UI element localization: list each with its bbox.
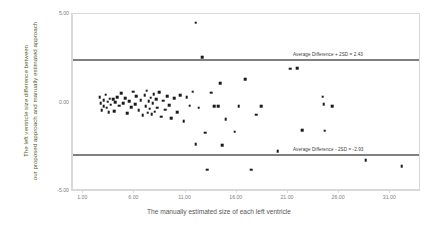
data-point <box>145 90 148 93</box>
data-point <box>198 107 201 110</box>
data-point <box>195 143 198 146</box>
data-point <box>98 96 101 99</box>
data-point <box>173 97 176 100</box>
data-point <box>113 110 116 113</box>
data-point <box>158 91 161 94</box>
x-tick-mark <box>82 190 83 193</box>
y-axis-title-line-1: The left ventricle size difference betwe… <box>22 6 31 196</box>
x-tick-label: 31.00 <box>383 194 396 200</box>
x-axis-title: The manually estimated size of each left… <box>0 208 438 215</box>
y-axis-title: The left ventricle size difference betwe… <box>22 6 40 196</box>
data-point <box>255 114 258 117</box>
data-point <box>221 144 224 147</box>
data-point <box>170 117 173 120</box>
data-point <box>151 113 154 116</box>
data-point <box>100 109 103 112</box>
data-point <box>217 105 220 108</box>
x-tick-mark <box>236 190 237 193</box>
data-point <box>132 90 135 93</box>
data-point <box>144 105 147 108</box>
upper-limit-label: Average Difference + 2SD = 2.43 <box>293 52 363 57</box>
data-point <box>124 97 127 100</box>
data-point <box>219 82 222 85</box>
data-point <box>224 118 227 121</box>
x-tick-mark <box>338 190 339 193</box>
x-tick-mark <box>133 190 134 193</box>
data-point <box>134 103 137 106</box>
x-tick-label: 16.00 <box>229 194 242 200</box>
data-point <box>233 130 236 133</box>
data-point <box>260 105 263 108</box>
lower-limit-label: Average Difference - 2SD = -2.93 <box>293 147 363 152</box>
data-point <box>166 95 169 98</box>
data-point <box>400 165 403 168</box>
data-point <box>110 103 113 106</box>
data-point <box>201 56 204 59</box>
data-point <box>276 150 279 153</box>
y-tick-label: -5.00 <box>44 187 69 193</box>
data-point <box>130 106 133 109</box>
data-point <box>206 168 209 171</box>
data-point <box>204 131 207 134</box>
data-point <box>210 91 213 94</box>
data-point <box>162 99 165 102</box>
data-point <box>182 120 185 123</box>
upper-limit-line <box>73 59 419 60</box>
data-point <box>139 99 142 102</box>
y-axis-title-line-2: our proposed approach and manually estim… <box>31 6 40 196</box>
x-axis-spine <box>71 190 420 191</box>
data-point <box>128 100 131 103</box>
x-tick-mark <box>389 190 390 193</box>
data-point <box>137 109 140 112</box>
x-tick-mark <box>185 190 186 193</box>
y-tick-label: 5.00 <box>44 10 69 16</box>
data-point <box>176 111 179 114</box>
x-tick-label: 11.00 <box>178 194 191 200</box>
data-point <box>321 96 324 99</box>
data-point <box>364 159 367 162</box>
data-point <box>146 111 149 114</box>
lower-limit-line <box>73 154 419 155</box>
data-point <box>147 100 150 103</box>
data-point <box>155 98 158 101</box>
data-point <box>164 108 167 111</box>
data-point <box>116 96 119 99</box>
data-point <box>122 102 125 105</box>
data-point <box>105 107 108 110</box>
data-point <box>191 90 194 93</box>
data-point <box>102 99 105 102</box>
data-point <box>331 105 334 108</box>
x-tick-label: 21.00 <box>280 194 293 200</box>
x-tick-label: 1.00 <box>77 194 87 200</box>
data-point <box>195 22 198 25</box>
data-point <box>168 104 171 107</box>
data-point <box>153 93 156 96</box>
data-point <box>188 104 191 107</box>
data-point <box>118 104 121 107</box>
data-point <box>135 95 138 98</box>
plot-area: Average Difference + 2SD = 2.43Average D… <box>72 13 420 190</box>
data-point <box>179 94 182 97</box>
data-point <box>250 168 253 171</box>
data-point <box>301 129 304 132</box>
bland-altman-chart: Average Difference + 2SD = 2.43Average D… <box>0 0 438 228</box>
data-point <box>185 96 188 99</box>
data-point <box>143 94 146 97</box>
data-point <box>289 68 292 71</box>
data-point <box>213 105 216 108</box>
data-point <box>141 114 144 117</box>
data-point <box>120 92 123 95</box>
data-point <box>104 93 107 96</box>
data-point <box>238 105 241 108</box>
data-point <box>114 101 117 104</box>
x-tick-label: 26.00 <box>332 194 345 200</box>
data-point <box>152 102 155 105</box>
data-point <box>126 112 129 115</box>
data-point <box>322 103 325 106</box>
data-point <box>156 107 159 110</box>
x-tick-mark <box>287 190 288 193</box>
data-point <box>148 108 151 111</box>
data-point <box>108 111 111 114</box>
plot-inner: Average Difference + 2SD = 2.43Average D… <box>73 14 419 189</box>
data-point <box>149 96 152 99</box>
